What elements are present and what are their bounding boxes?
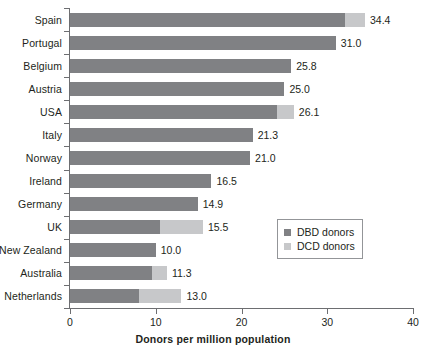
value-label: 15.5 [208,221,228,233]
bar-segment-dbd [70,220,160,234]
value-label: 16.5 [216,175,236,187]
legend-swatch-dcd-icon [284,243,291,250]
value-label: 25.8 [296,60,316,72]
stacked-bar [70,128,253,142]
stacked-bar [70,105,294,119]
bar-segment-dbd [70,289,139,303]
category-label: Austria [29,83,62,95]
bar-segment-dbd [70,151,250,165]
bar-row: Norway21.0 [70,146,413,169]
category-label: Norway [26,152,62,164]
bar-segment-dbd [70,243,156,257]
bar-segment-dbd [70,13,345,27]
value-label: 21.0 [255,152,275,164]
stacked-bar [70,220,203,234]
bar-segment-dcd [160,220,203,234]
value-label: 10.0 [161,244,181,256]
legend-label-dcd: DCD donors [297,240,355,252]
stacked-bar [70,151,250,165]
legend-swatch-dbd-icon [284,229,291,236]
x-axis-tick-label: 40 [407,316,419,328]
stacked-bar [70,197,198,211]
x-axis-tick [242,309,243,314]
x-axis-title: Donors per million population [0,333,426,345]
category-label: UK [47,221,62,233]
donor-rate-bar-chart: Spain34.4Portugal31.0Belgium25.8Austria2… [0,0,426,352]
category-label: Spain [35,14,62,26]
y-axis-tick [64,216,69,217]
stacked-bar [70,59,291,73]
bar-row: USA26.1 [70,100,413,123]
y-axis-tick [64,285,69,286]
category-label: Ireland [29,175,62,187]
category-label: Germany [18,198,62,210]
y-axis-tick [64,123,69,124]
bar-segment-dbd [70,266,152,280]
value-label: 14.9 [203,198,223,210]
value-label: 26.1 [299,106,319,118]
category-label: Belgium [23,60,62,72]
y-axis-tick [64,8,69,9]
bar-segment-dbd [70,36,336,50]
x-axis-tick-label: 0 [67,316,73,328]
bar-segment-dbd [70,59,291,73]
y-axis-tick [64,146,69,147]
y-axis-tick [64,170,69,171]
x-axis-tick [156,309,157,314]
bar-row: Germany14.9 [70,193,413,216]
category-label: USA [40,106,62,118]
bar-row: Netherlands13.0 [70,285,413,308]
legend-label-dbd: DBD donors [297,226,354,238]
x-axis-tick [70,309,71,314]
bar-row: Australia11.3 [70,262,413,285]
bar-segment-dbd [70,105,277,119]
stacked-bar [70,266,167,280]
value-label: 25.0 [289,83,309,95]
plot-area: Spain34.4Portugal31.0Belgium25.8Austria2… [70,8,413,308]
stacked-bar [70,13,365,27]
x-axis-tick-label: 20 [236,316,248,328]
y-axis-tick [64,54,69,55]
bar-row: Austria25.0 [70,77,413,100]
y-axis-tick [64,193,69,194]
x-axis-tick-label: 30 [321,316,333,328]
x-axis-tick [327,309,328,314]
stacked-bar [70,82,284,96]
category-label: Australia [20,267,62,279]
y-axis-tick [64,100,69,101]
stacked-bar [70,243,156,257]
category-label: Netherlands [4,290,62,302]
bar-segment-dcd [345,13,365,27]
bar-row: Ireland16.5 [70,170,413,193]
bar-segment-dcd [152,266,167,280]
bar-segment-dbd [70,82,284,96]
value-label: 13.0 [186,290,206,302]
legend-item-dcd: DCD donors [284,239,355,253]
stacked-bar [70,36,336,50]
stacked-bar [70,289,181,303]
y-axis-tick [64,31,69,32]
bar-segment-dbd [70,197,198,211]
value-label: 31.0 [341,37,361,49]
bar-segment-dcd [277,105,294,119]
category-label: Portugal [22,37,62,49]
stacked-bar [70,174,211,188]
bar-row: Spain34.4 [70,8,413,31]
bar-segment-dcd [139,289,182,303]
y-axis-tick [64,262,69,263]
value-label: 21.3 [258,129,278,141]
legend-item-dbd: DBD donors [284,225,355,239]
bar-row: Italy21.3 [70,123,413,146]
bar-segment-dbd [70,128,253,142]
value-label: 11.3 [172,267,192,279]
bar-segment-dbd [70,174,211,188]
value-label: 34.4 [370,14,390,26]
x-axis-tick-label: 10 [150,316,162,328]
x-axis-tick [413,309,414,314]
category-label: New Zealand [0,244,62,256]
bar-row: Belgium25.8 [70,54,413,77]
y-axis-tick [64,308,69,309]
y-axis-tick [64,239,69,240]
category-label: Italy [42,129,62,141]
chart-legend: DBD donors DCD donors [277,219,363,259]
